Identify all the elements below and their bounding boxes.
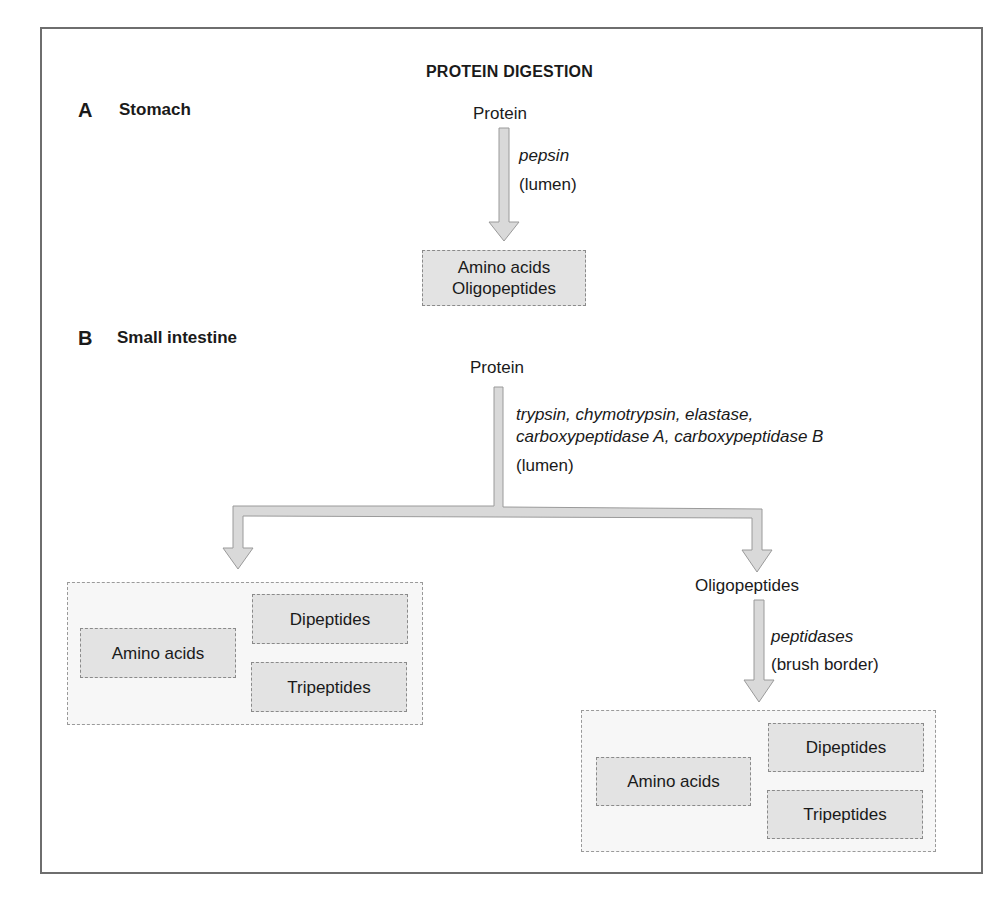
section-a-location: (lumen) (519, 175, 577, 195)
left-amino-acids-box: Amino acids (80, 628, 236, 678)
diagram-title: PROTEIN DIGESTION (426, 63, 593, 81)
intermediate-oligopeptides: Oligopeptides (695, 576, 799, 596)
right-dipeptides-label: Dipeptides (806, 737, 886, 758)
section-b-name: Small intestine (117, 328, 237, 348)
left-dipeptides-label: Dipeptides (290, 609, 370, 630)
section-a-substrate: Protein (473, 104, 527, 124)
left-tripeptides-label: Tripeptides (287, 677, 370, 698)
right-tripeptides-box: Tripeptides (767, 790, 923, 839)
right-amino-acids-label: Amino acids (627, 771, 720, 792)
arrow-peptidases-icon (744, 600, 774, 702)
product-oligopeptides: Oligopeptides (452, 278, 556, 299)
arrow-stomach-icon (489, 128, 519, 241)
section-a-enzyme: pepsin (519, 145, 569, 167)
left-dipeptides-box: Dipeptides (252, 594, 408, 644)
left-amino-acids-label: Amino acids (112, 643, 205, 664)
section-b-letter: B (78, 327, 92, 350)
second-enzyme: peptidases (771, 626, 853, 648)
right-tripeptides-label: Tripeptides (803, 804, 886, 825)
section-a-name: Stomach (119, 100, 191, 120)
section-b-substrate: Protein (470, 358, 524, 378)
section-a-letter: A (78, 99, 92, 122)
section-b-location: (lumen) (516, 456, 574, 476)
section-b-enzymes-line1: trypsin, chymotrypsin, elastase, (516, 404, 753, 426)
left-tripeptides-box: Tripeptides (251, 662, 407, 712)
right-amino-acids-box: Amino acids (596, 757, 751, 806)
section-a-products-box: Amino acids Oligopeptides (422, 250, 586, 306)
section-b-enzymes-line2: carboxypeptidase A, carboxypeptidase B (516, 426, 823, 448)
product-amino-acids: Amino acids (458, 257, 551, 278)
second-location: (brush border) (771, 655, 879, 675)
right-dipeptides-box: Dipeptides (768, 723, 924, 772)
